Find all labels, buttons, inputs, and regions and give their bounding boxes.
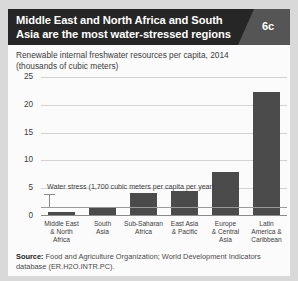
x-axis-category-label: Europe& CentralAsia [205,220,246,244]
chart-panel: Renewable internal freshwater resources … [8,45,290,248]
source-footer: Source: Food and Agriculture Organizatio… [8,248,290,276]
y-axis-tick-label: 0 [3,211,33,220]
y-axis-tick-label: 20 [3,100,33,109]
y-axis-tick-label: 10 [3,155,33,164]
chart-subtitle-line2: (thousands of cubic meters) [16,61,118,71]
bar-chart-plot-area: 0510152025Middle East& NorthAfricaSouthA… [41,77,287,216]
gridline [41,160,287,161]
y-axis-tick-label: 5 [3,183,33,192]
water-stress-annotation-label: Water stress (1,700 cubic meters per cap… [47,183,214,191]
x-axis-category-label: SouthAsia [82,220,123,236]
y-axis-tick-label: 25 [3,72,33,81]
chart-subtitle-line1: Renewable internal freshwater resources … [16,50,229,60]
bar [130,193,157,215]
y-axis-tick-label: 15 [3,128,33,137]
source-label: Source: [16,252,44,261]
x-axis-category-label: Sub-SaharanAfrica [123,220,164,236]
figure-number-label: 6c [262,20,274,32]
figure-number-badge: 6c [238,9,290,45]
gridline [41,77,287,78]
water-stress-threshold-line [41,207,287,208]
gridline [41,105,287,106]
x-axis-category-label: East Asia& Pacific [164,220,205,236]
source-body: Food and Agriculture Organization; World… [16,252,261,271]
figure-container: Middle East and North Africa and South A… [0,0,298,281]
source-text: Source: Food and Agriculture Organizatio… [16,252,282,271]
water-stress-annotation-cap [44,194,55,195]
water-stress-annotation-stem [49,194,50,206]
x-axis-baseline [41,215,287,216]
figure-header: Middle East and North Africa and South A… [8,9,290,45]
bar [89,208,116,215]
gridline [41,133,287,134]
bar [212,172,239,215]
x-axis-category-label: LatinAmerica &Caribbean [246,220,287,244]
bar [48,212,75,215]
bar [171,191,198,215]
x-axis-category-label: Middle East& NorthAfrica [41,220,82,244]
bar [253,92,280,215]
chart-subtitle: Renewable internal freshwater resources … [16,50,266,71]
figure-title: Middle East and North Africa and South A… [16,13,244,41]
